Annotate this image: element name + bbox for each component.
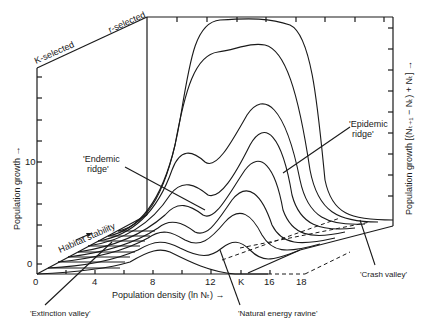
x-tick-4: 4 [92,276,97,287]
left-axis-label: Population growth → [12,146,22,230]
extinction-valley-label: 'Extinction valley' [30,309,91,318]
x-tick-18: 18 [296,276,307,287]
left-axis-tick-10: 10 [25,156,36,167]
endemic-ridge-leader [125,167,205,210]
left-axis-ticks [37,77,42,264]
right-axis-ticks [388,28,393,196]
r-selected-label: r-selected [107,10,147,35]
crash-valley-label: 'Crash valley' [360,270,408,279]
endemic-ridge-label-line1: 'Endemic [83,154,120,164]
x-tick-16: 16 [264,276,275,287]
natural-energy-ravine-label: 'Natural energy ravine' [238,309,318,318]
crash-valley-leader [360,220,375,265]
x-tick-12: 12 [205,276,216,287]
x-tick-0: 0 [33,276,38,287]
epidemic-ridge-label-line1: 'Epidemic [349,119,388,129]
x-axis-label: Population density (ln Nₜ) → [112,290,225,300]
dashed-floor-lines [222,218,370,274]
x-tick-8: 8 [150,276,155,287]
right-axis-label: Population growth [(Nₜ₊₁ − Nₜ) + Nₜ] → [404,61,414,215]
epidemic-ridge-label-line2: ridge' [352,129,374,139]
x-tick-k: K [238,276,245,287]
endemic-ridge-label-line2: ridge' [87,164,109,174]
left-axis-tick-0: 0 [27,258,32,269]
top-edge-ticks [177,17,384,22]
population-surface-diagram: K-selected r-selected Population growth … [0,0,440,329]
